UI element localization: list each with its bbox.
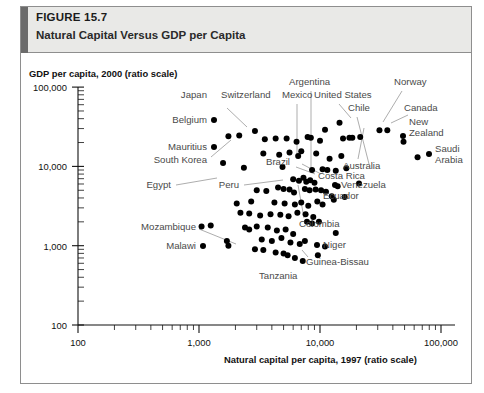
data-point [260,247,266,253]
data-point [271,200,277,206]
data-point [317,138,323,144]
figure-number: FIGURE 15.7 [36,10,456,25]
data-point [290,176,296,182]
annotation-label-canada: Canada [404,103,438,114]
data-point [302,238,308,244]
data-point [283,227,289,233]
data-point [234,201,240,207]
annotation-label-brazil: Brazil [266,157,290,168]
data-point [281,186,287,192]
x-tick-label: 10,000 [306,337,335,348]
annotation-label-argentina: Argentina [289,77,330,88]
data-point [237,210,243,216]
annotation-label-norway: Norway [394,77,427,88]
data-point [303,211,309,217]
data-point [211,117,217,123]
data-point [225,243,231,249]
data-point [278,235,284,241]
data-point [314,199,320,205]
data-point [338,153,344,159]
data-point [277,212,283,218]
annotation-label-guinea-bissau: Guinea-Bissau [306,257,369,268]
data-point [297,241,303,247]
data-point [273,250,279,256]
data-point [236,133,242,139]
annotation-label-egypt: Egypt [146,180,171,191]
data-point [376,127,382,133]
data-point [273,135,279,141]
data-point [257,213,263,219]
figure-number-text: FIGURE 15.7 [36,11,107,23]
data-point [313,151,319,157]
data-point [287,239,293,245]
data-point [262,136,268,142]
data-point [287,149,293,155]
data-point [259,236,265,242]
data-point [332,182,338,188]
data-point [357,134,363,140]
annotation-label-south-korea: South Korea [154,155,207,166]
data-point [284,135,290,141]
data-point [313,187,319,193]
annotation-label-japan: Japan [181,90,207,101]
data-point [246,210,252,216]
x-tick-label: 1,000 [187,337,210,348]
y-tick-label: 1,000 [21,240,67,251]
data-point [294,210,300,216]
annotation-label-switzerland: Switzerland [221,90,271,101]
data-point [311,180,317,186]
data-point [415,154,421,160]
data-point [305,203,311,209]
leader-line [357,117,369,164]
data-point [286,213,292,219]
data-point [275,185,281,191]
data-point [211,144,217,150]
data-point [200,243,206,249]
data-point [298,148,304,154]
annotation-label-peru: Peru [219,180,239,191]
annotation-label-mozambique: Mozambique [141,222,196,233]
data-point [252,246,258,252]
data-point [333,230,339,236]
data-point [248,199,254,205]
annotation-label-new-zealand: NewZealand [409,116,444,138]
data-point [309,167,315,173]
data-point [290,231,296,237]
header-text-block: FIGURE 15.7 Natural Capital Versus GDP p… [36,10,456,43]
data-point [241,165,247,171]
data-point [298,200,304,206]
data-point [294,139,300,145]
data-point [208,222,214,228]
leader-line [383,91,402,122]
leader-line [227,108,247,127]
data-point [384,127,390,133]
annotation-label-ecuador: Ecuador [323,191,359,202]
annotation-label-chile: Chile [348,103,370,114]
data-point [199,223,205,229]
data-point [263,188,269,194]
data-point [300,258,306,264]
data-point [254,223,260,229]
annotation-label-mexico: Mexico [282,90,312,101]
x-tick-label: 100 [70,337,86,348]
y-tick-label: 100 [21,320,67,331]
axis-lines [78,87,455,325]
data-point [292,255,298,261]
data-point [225,133,231,139]
data-point [426,151,432,157]
header-accent-bar [21,7,28,53]
data-point [265,224,271,230]
data-point [308,135,314,141]
annotation-label-colombia: Colombia [299,219,340,230]
annotation-label-malawi: Malawi [166,241,196,252]
data-point [254,187,260,193]
data-point [337,120,343,126]
data-point [220,160,226,166]
annotation-label-venezuela: Venezuela [341,180,386,191]
annotation-label-tanzania: Tanzania [259,271,297,282]
leader-line [391,115,408,123]
data-point [246,227,252,233]
x-tick-label: 100,000 [424,337,458,348]
y-tick-label: 10,000 [21,161,67,172]
leader-line [244,180,283,185]
